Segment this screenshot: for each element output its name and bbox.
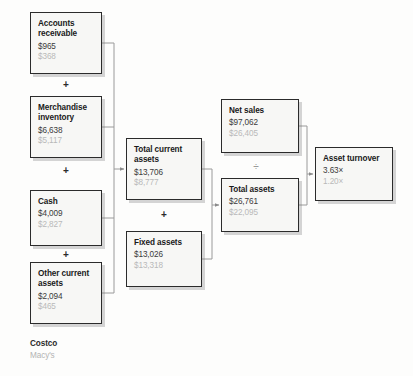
value-costco: $13,026 <box>134 250 194 261</box>
value-costco: $6,638 <box>38 126 94 137</box>
asset-turnover-diagram: + + + + ÷ Accounts receivable $965 $368 … <box>0 0 413 376</box>
legend-item-costco: Costco <box>30 338 57 350</box>
value-macys: $5,117 <box>38 136 94 147</box>
node-title: Total assets <box>229 185 291 195</box>
node-title: Fixed assets <box>134 238 194 248</box>
node-title: Total current assets <box>134 145 194 166</box>
node-other-current-assets: Other current assets $2,094 $465 <box>30 262 102 324</box>
node-total-current-assets: Total current assets $13,706 $8,777 <box>126 138 202 200</box>
operator-divide: ÷ <box>248 162 264 172</box>
node-accounts-receivable: Accounts receivable $965 $368 <box>30 12 102 74</box>
node-merchandise-inventory: Merchandise inventory $6,638 $5,117 <box>30 96 102 158</box>
value-costco: $4,009 <box>38 209 94 220</box>
value-macys: $22,095 <box>229 208 291 219</box>
value-macys: $13,318 <box>134 261 194 272</box>
value-macys: $2,827 <box>38 220 94 231</box>
operator-plus-2: + <box>58 166 74 176</box>
value-macys: $8,777 <box>134 178 194 189</box>
node-total-assets: Total assets $26,761 $22,095 <box>221 178 299 232</box>
value-macys: $465 <box>38 302 94 313</box>
node-title: Accounts receivable <box>38 19 94 40</box>
value-costco: $965 <box>38 42 94 53</box>
node-fixed-assets: Fixed assets $13,026 $13,318 <box>126 231 202 287</box>
node-asset-turnover: Asset turnover 3.63× 1.20× <box>315 147 393 201</box>
value-macys: 1.20× <box>323 177 385 188</box>
node-title: Asset turnover <box>323 154 385 164</box>
node-title: Cash <box>38 197 94 207</box>
legend-item-macys: Macy's <box>30 350 57 362</box>
value-costco: $13,706 <box>134 168 194 179</box>
operator-plus-1: + <box>58 80 74 90</box>
node-title: Other current assets <box>38 269 94 290</box>
legend: Costco Macy's <box>30 338 57 362</box>
value-costco: $2,094 <box>38 292 94 303</box>
value-costco: 3.63× <box>323 166 385 177</box>
value-macys: $368 <box>38 52 94 63</box>
operator-plus-3: + <box>58 250 74 260</box>
node-net-sales: Net sales $97,062 $26,405 <box>221 99 299 153</box>
node-title: Net sales <box>229 106 291 116</box>
value-costco: $97,062 <box>229 118 291 129</box>
value-macys: $26,405 <box>229 129 291 140</box>
value-costco: $26,761 <box>229 197 291 208</box>
operator-plus-4: + <box>156 210 172 220</box>
node-cash: Cash $4,009 $2,827 <box>30 190 102 246</box>
node-title: Merchandise inventory <box>38 103 94 124</box>
